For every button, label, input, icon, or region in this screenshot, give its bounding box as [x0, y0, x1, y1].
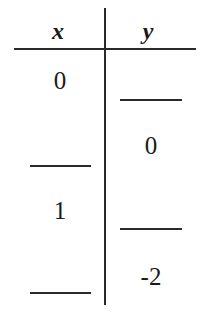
header-underline [14, 48, 196, 50]
header-y: y [128, 17, 168, 45]
x-value-row-3: 1 [30, 197, 90, 225]
y-blank-row-3[interactable] [120, 228, 182, 230]
y-value-row-2: 0 [121, 132, 181, 160]
x-blank-row-4[interactable] [30, 292, 91, 294]
column-divider [104, 8, 106, 305]
y-value-row-4: -2 [121, 263, 181, 291]
xy-value-table: x y 0 1 0 -2 [0, 0, 200, 323]
x-blank-row-2[interactable] [30, 165, 91, 167]
header-x: x [38, 17, 78, 45]
x-value-row-1: 0 [30, 67, 90, 95]
y-blank-row-1[interactable] [120, 99, 182, 101]
